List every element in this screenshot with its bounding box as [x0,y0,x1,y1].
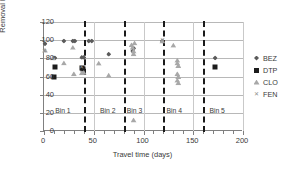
x-axis-minor-tick [134,131,135,134]
data-point-bez [106,52,111,57]
x-gridline [144,22,145,131]
bin-divider [203,21,205,132]
data-point-clo [174,60,180,65]
x-gridline [94,22,95,131]
x-axis-tick [44,131,45,135]
y-axis-tick-label: 0 [50,127,54,135]
x-axis-minor-tick [183,131,184,134]
x-axis-minor-tick [64,131,65,134]
square-icon [252,68,261,73]
bin-label: Bin 1 [55,107,71,114]
y-axis-tick [40,95,44,96]
data-point-bez [213,55,218,60]
x-axis-minor-tick [114,131,115,134]
bin-label: Bin 3 [127,107,143,114]
x-axis-tick [94,131,95,135]
legend-item-bez: BEZ [252,52,298,64]
x-axis-tick-label: 150 [186,137,199,145]
x-icon: ✕ [252,91,261,97]
y-axis-title: Removal Efficiency (%) [0,0,7,34]
bin-label: Bin 5 [209,107,225,114]
legend-item-dtp: DTP [252,64,298,76]
plot-area: ✕✕✕ [43,22,242,131]
x-axis-minor-tick [74,131,75,134]
x-axis-tick-label: 100 [136,137,149,145]
data-point-clo [131,118,137,123]
legend-item-clo: CLO [252,76,298,88]
x-axis-minor-tick [213,131,214,134]
data-point-dtp [213,64,218,69]
data-point-fen: ✕ [79,64,85,70]
y-axis-tick-label: 120 [41,18,54,26]
data-point-fen: ✕ [159,37,165,43]
y-axis-tick-label: 20 [46,109,54,117]
data-point-clo [61,60,67,65]
data-point-clo [106,73,112,78]
triangle-icon [252,80,261,85]
data-point-clo [71,71,77,76]
x-axis-minor-tick [223,131,224,134]
x-axis-minor-tick [54,131,55,134]
data-point-clo [70,45,76,50]
x-axis-minor-tick [233,131,234,134]
x-axis-tick-label: 200 [236,137,249,145]
x-axis-minor-tick [153,131,154,134]
y-axis-tick-label: 60 [46,73,54,81]
diamond-icon [252,56,261,61]
x-axis-minor-tick [173,131,174,134]
chart-legend: BEZDTPCLO✕FEN [252,52,298,100]
data-point-dtp [52,64,57,69]
scatter-chart-figure: Removal Efficiency (%) ✕✕✕ Travel time (… [0,0,301,176]
x-axis-tick [243,131,244,135]
x-axis-minor-tick [104,131,105,134]
legend-label: CLO [263,78,278,87]
y-axis-tick-label: 100 [41,36,54,44]
x-axis-tick-label: 50 [89,137,97,145]
legend-label: FEN [263,90,277,99]
data-point-clo [170,43,176,48]
y-axis-tick [40,113,44,114]
bin-label: Bin 4 [167,107,183,114]
x-gridline [193,22,194,131]
y-axis-tick [40,58,44,59]
data-point-clo [96,61,102,66]
y-axis-tick [40,77,44,78]
bin-label: Bin 2 [100,107,116,114]
legend-label: BEZ [263,54,277,63]
y-axis-tick-label: 40 [46,91,54,99]
bin-divider [84,21,86,132]
x-axis-tick-label: 0 [41,137,45,145]
x-axis-tick [144,131,145,135]
bin-divider [124,21,126,132]
x-gridline [243,22,244,131]
x-axis-tick [193,131,194,135]
legend-label: DTP [263,66,277,75]
x-axis-title: Travel time (days) [43,150,242,159]
y-axis-tick-label: 80 [46,54,54,62]
legend-item-fen: ✕FEN [252,88,298,100]
data-point-clo [174,71,180,76]
